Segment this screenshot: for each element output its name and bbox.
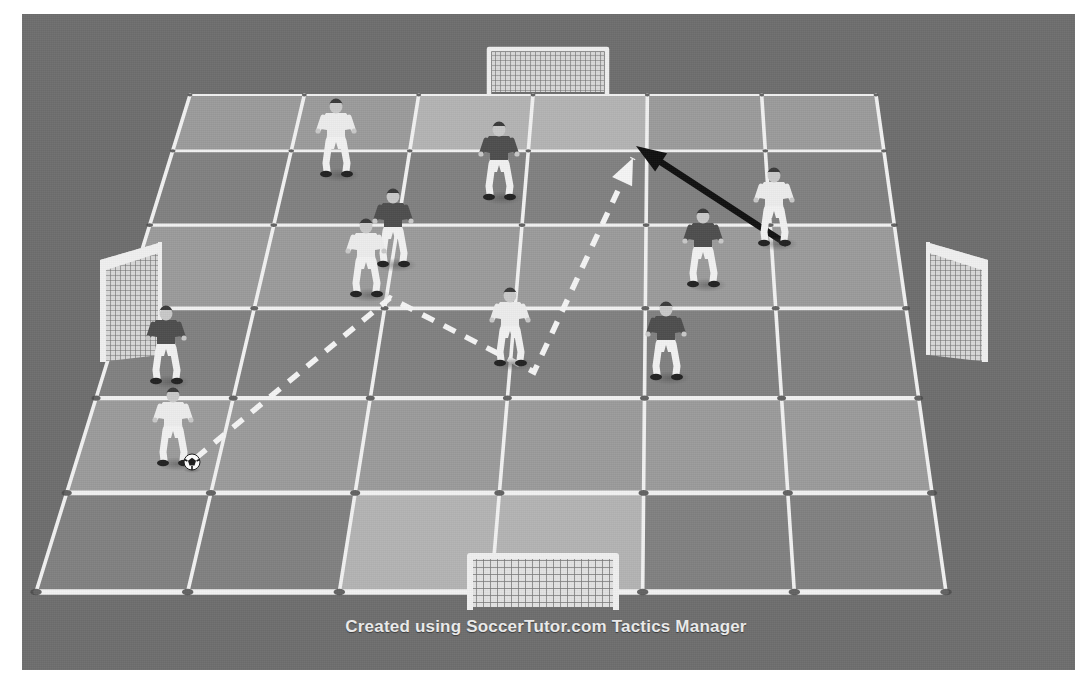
grid-node-marker <box>62 490 72 496</box>
player-boot-left <box>494 360 506 366</box>
grid-node-marker <box>914 395 923 400</box>
pitch-cell <box>188 493 355 592</box>
player-boot-right <box>341 171 353 177</box>
player-hand-left <box>372 218 377 223</box>
player-hand-right <box>188 417 193 422</box>
grid-node-marker <box>874 94 879 97</box>
pitch-cell <box>211 398 370 493</box>
player-boot-left <box>377 261 389 267</box>
player-boot-right <box>398 261 410 267</box>
soccer-ball <box>183 454 201 473</box>
grid-node-marker <box>416 94 421 97</box>
grid-node-marker <box>381 306 389 310</box>
player-boot-right <box>371 291 383 297</box>
grid-node-marker <box>170 149 176 152</box>
goal-left-goal <box>100 242 162 362</box>
player-boot-right <box>515 360 527 366</box>
grid-node-marker <box>366 395 375 400</box>
grid-node-marker <box>783 490 793 496</box>
pitch-cell <box>788 493 946 592</box>
player-boot-left <box>157 460 169 466</box>
grid-node-marker <box>92 395 101 400</box>
grid-node-marker <box>638 490 648 496</box>
grid-node-marker <box>250 306 258 310</box>
caption-text: Created using SoccerTutor.com Tactics Ma… <box>0 617 1092 637</box>
player-boot-right <box>779 240 791 246</box>
player-hand-left <box>645 331 650 336</box>
pitch-cell <box>291 95 418 151</box>
grid-node-marker <box>927 490 937 496</box>
grid-node-marker <box>407 149 413 152</box>
grid-node-marker <box>288 149 294 152</box>
pitch-cell <box>647 95 766 151</box>
grid-node-marker <box>302 94 307 97</box>
grid-node-marker <box>637 589 649 596</box>
player-hand-left <box>682 238 687 243</box>
goal-top-goal <box>489 49 607 95</box>
goal-net <box>492 52 604 92</box>
grid-node-marker <box>772 306 780 310</box>
player-boot-left <box>758 240 770 246</box>
pitch-cell <box>762 95 884 151</box>
pitch-cell <box>644 398 788 493</box>
grid-node-marker <box>350 490 360 496</box>
grid-node-marker <box>519 223 526 227</box>
pitch-cell <box>499 398 644 493</box>
player-hand-left <box>753 197 758 202</box>
player-hand-right <box>351 128 356 133</box>
player-hand-right <box>181 335 186 340</box>
grid-node-marker <box>777 395 786 400</box>
pitch-cell <box>355 398 507 493</box>
player-hand-left <box>489 317 494 322</box>
grid-node-marker <box>640 395 649 400</box>
player-boot-left <box>320 171 332 177</box>
player-hand-right <box>514 151 519 156</box>
player-hand-right <box>525 317 530 322</box>
player-hand-left <box>152 417 157 422</box>
tactics-diagram: Created using SoccerTutor.com Tactics Ma… <box>0 0 1092 684</box>
player-boot-left <box>650 374 662 380</box>
pitch-cell <box>770 225 906 308</box>
grid-node-marker <box>146 223 153 227</box>
grid-node-marker <box>759 94 764 97</box>
player-hand-right <box>408 218 413 223</box>
player-hand-left <box>478 151 483 156</box>
grid-node-marker <box>525 149 531 152</box>
pitch-cell <box>528 95 647 151</box>
player-boot-right <box>504 194 516 200</box>
goal-post-front <box>982 260 988 362</box>
pitch-cell <box>233 308 384 398</box>
grid-node-marker <box>334 589 346 596</box>
player-hand-right <box>381 248 386 253</box>
grid-node-marker <box>182 589 194 596</box>
grid-node-marker <box>30 589 42 596</box>
player-boot-left <box>687 281 699 287</box>
grid-node-marker <box>188 94 193 97</box>
pitch-cell <box>776 308 919 398</box>
goal-bottom-goal <box>470 556 616 610</box>
pitch-cell <box>522 151 647 225</box>
player-hand-right <box>718 238 723 243</box>
ball-layer <box>183 454 201 473</box>
grid-node-marker <box>206 490 216 496</box>
pitch-scene <box>0 0 1092 684</box>
player-hand-left <box>145 335 150 340</box>
grid-node-marker <box>503 395 512 400</box>
grid-node-marker <box>891 223 898 227</box>
grid-node-marker <box>229 395 238 400</box>
player-boot-left <box>350 291 362 297</box>
player-boot-right <box>708 281 720 287</box>
grid-node-marker <box>902 306 910 310</box>
grid-node-marker <box>494 490 504 496</box>
grid-node-marker <box>762 149 768 152</box>
grid-node-marker <box>270 223 277 227</box>
grid-node-marker <box>531 94 536 97</box>
player-hand-left <box>345 248 350 253</box>
grid-node-marker <box>645 94 650 97</box>
goal-post-back <box>926 242 930 355</box>
grid-node-marker <box>643 223 650 227</box>
pitch-cell <box>782 398 932 493</box>
player-boot-left <box>483 194 495 200</box>
player-hand-right <box>681 331 686 336</box>
pitch-cell <box>173 95 305 151</box>
